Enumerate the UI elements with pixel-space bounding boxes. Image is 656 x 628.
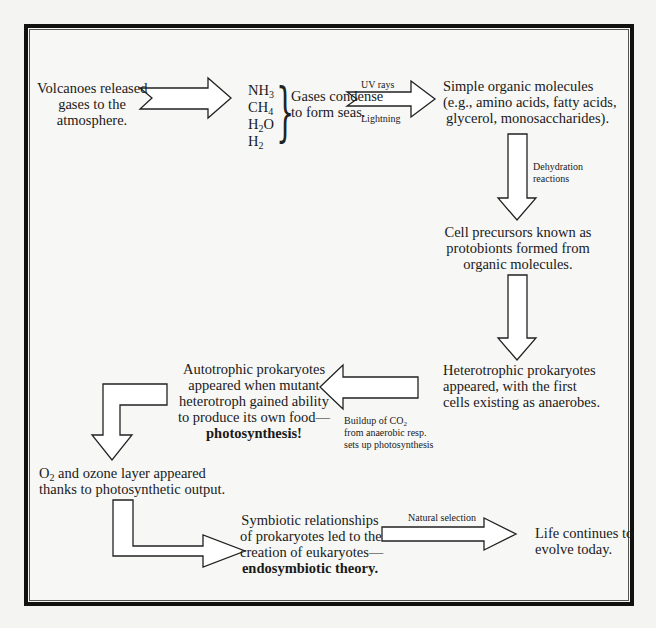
node-text-line: appeared, with the first: [443, 378, 600, 394]
node-text-line: appeared when mutant: [174, 377, 334, 393]
node-text-line: to produce its own food—: [174, 409, 334, 425]
node-text-line: Simple organic molecules: [443, 78, 617, 94]
node-gases-list: NH3 CH4 H2O H2: [248, 82, 274, 150]
node-protobionts: Cell precursors known as protobionts for…: [443, 224, 593, 272]
arrow-volcanoes-to-gases: [140, 78, 231, 118]
node-text-line: of prokaryotes led to the: [240, 528, 380, 544]
node-text-line: atmosphere.: [37, 112, 147, 128]
node-text-line: evolve today.: [535, 541, 633, 557]
node-text-line: gases to the: [37, 96, 147, 112]
node-text-line: Autotrophic prokaryotes: [174, 361, 334, 377]
edge-label-natural-selection: Natural selection: [408, 512, 476, 524]
gas-ch4: CH4: [248, 99, 274, 116]
arrow-heterotrophic-to-autotrophic: [320, 365, 418, 409]
node-text-line: organic molecules.: [443, 256, 593, 272]
edge-label-uv: UV rays: [361, 79, 394, 91]
node-symbiotic: Symbiotic relationships of prokaryotes l…: [240, 512, 380, 576]
node-life: Life continues to evolve today.: [535, 525, 633, 557]
node-text-line: glycerol, monosaccharides).: [443, 110, 617, 126]
gas-nh3: NH3: [248, 82, 274, 99]
node-text-line: protobionts formed from: [443, 240, 593, 256]
node-text-line: Cell precursors known as: [443, 224, 593, 240]
arrow-oxygen-to-symbiotic: [113, 500, 245, 567]
node-text-line: Heterotrophic prokaryotes: [443, 362, 600, 378]
node-text-line: Symbiotic relationships: [240, 512, 380, 528]
node-text-line: Life continues to: [535, 525, 633, 541]
node-volcanoes: Volcanoes released gases to the atmosphe…: [37, 80, 147, 128]
node-text-line: cells existing as anaerobes.: [443, 394, 600, 410]
edge-label-co2: Buildup of CO2 from anaerobic resp. sets…: [344, 415, 433, 451]
node-simple-organic: Simple organic molecules (e.g., amino ac…: [443, 78, 617, 126]
node-text-line: thanks to photosynthetic output.: [39, 481, 225, 497]
gas-h2: H2: [248, 133, 274, 150]
node-text-line: (e.g., amino acids, fatty acids,: [443, 94, 617, 110]
arrow-autotrophic-to-oxygen: [92, 384, 167, 460]
node-text-line: creation of eukaryotes—: [240, 544, 380, 560]
edge-label-lightning: Lightning: [361, 113, 400, 125]
arrow-protobionts-to-heterotrophic: [498, 275, 536, 360]
node-text-bold: endosymbiotic theory.: [240, 560, 380, 576]
node-text-bold: photosynthesis!: [174, 425, 334, 441]
node-autotrophic: Autotrophic prokaryotes appeared when mu…: [174, 361, 334, 441]
arrow-organic-to-protobionts: [498, 134, 536, 220]
node-heterotrophic: Heterotrophic prokaryotes appeared, with…: [443, 362, 600, 410]
node-text-line: heterotroph gained ability: [174, 393, 334, 409]
node-text-line: Volcanoes released: [37, 80, 147, 96]
node-oxygen: O2 and ozone layer appeared thanks to ph…: [39, 465, 225, 497]
edge-label-dehydration: Dehydration reactions: [533, 161, 583, 185]
gas-h2o: H2O: [248, 116, 274, 133]
node-text-line: O2 and ozone layer appeared: [39, 465, 225, 481]
